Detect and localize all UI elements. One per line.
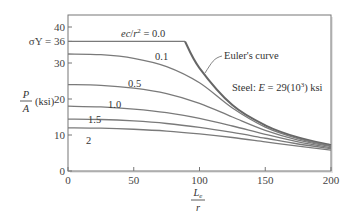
y-label-num: P bbox=[22, 89, 30, 100]
y-tick-label: 0 bbox=[60, 165, 66, 177]
curve-label: 2 bbox=[86, 135, 91, 146]
steel-label: Steel: E = 29(103) ksi bbox=[232, 81, 323, 94]
curve-label: 1.0 bbox=[108, 99, 121, 110]
curve-label: 1.5 bbox=[88, 114, 101, 125]
x-label-den: r bbox=[196, 202, 201, 213]
y-tick-label: 40 bbox=[54, 21, 66, 33]
sigma-y-label: σY = 36 bbox=[29, 35, 66, 47]
euler-label: Euler's curve bbox=[224, 50, 279, 61]
x-tick-label: 200 bbox=[323, 174, 340, 186]
column-curve-chart: 050100150200010203040σY = 36 0.10.51.01.… bbox=[0, 0, 355, 221]
x-label-num: Le bbox=[193, 187, 203, 200]
curve-label: 0.1 bbox=[155, 51, 168, 62]
y-label-unit: (ksi) bbox=[35, 96, 55, 108]
x-tick-label: 100 bbox=[191, 174, 208, 186]
x-tick-label: 0 bbox=[65, 174, 71, 186]
y-tick-label: 10 bbox=[54, 129, 66, 141]
y-label-den: A bbox=[22, 103, 30, 114]
y-tick-label: 20 bbox=[54, 93, 66, 105]
curve-label: 0.5 bbox=[128, 78, 141, 89]
y-tick-label: 30 bbox=[54, 57, 66, 69]
plot-frame bbox=[68, 15, 331, 171]
ec-ratio-label: ec/r2 = 0.0 bbox=[121, 27, 165, 39]
x-tick-label: 150 bbox=[257, 174, 274, 186]
x-tick-label: 50 bbox=[128, 174, 140, 186]
